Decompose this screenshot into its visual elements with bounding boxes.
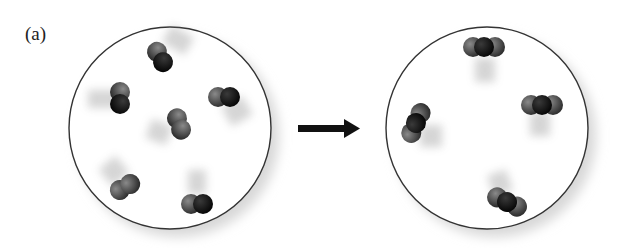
reaction-arrow (298, 119, 360, 138)
right-container (386, 27, 588, 229)
molecule-triatomic (463, 37, 505, 57)
molecule-diatomic (110, 82, 130, 114)
molecule-triatomic (521, 95, 563, 115)
left-container (69, 25, 271, 229)
molecule-diatomic (208, 87, 240, 107)
reaction-diagram (0, 0, 617, 248)
molecule-diatomic (181, 194, 213, 214)
